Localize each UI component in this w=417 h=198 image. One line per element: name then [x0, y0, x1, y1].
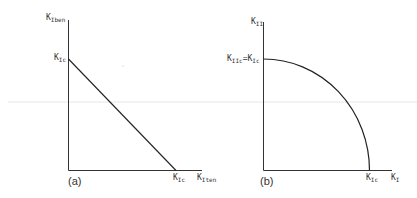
panel-b-elliptical-criterion-curve — [264, 59, 370, 171]
panel-b-caption: (b) — [260, 176, 273, 187]
panel-a-caption: (a) — [68, 176, 81, 187]
panel-a-x-intercept-label: KIc — [173, 174, 185, 183]
panel-a-x-axis-label: KIten — [197, 174, 216, 183]
scan-speck — [122, 65, 124, 67]
panel-b-x-intercept-label: KIc — [366, 174, 378, 183]
panel-b-x-axis-label: KI — [391, 174, 399, 183]
panel-b-axes — [264, 22, 393, 171]
panel-a-axes — [69, 20, 203, 171]
panel-a-y-intercept-label: KIc — [54, 54, 66, 63]
panel-b-y-axis-label: KII — [251, 18, 263, 27]
panel-a-y-axis-label: KIben — [46, 14, 65, 23]
panel-b-y-intercept-label: KIIc=KIc — [227, 55, 260, 64]
panel-a-linear-criterion-line — [69, 59, 177, 171]
fracture-criteria-diagram: KIben KIc KIc KIten (a) KII KIIc=KIc KIc… — [0, 0, 417, 198]
diagram-graphics — [0, 0, 417, 198]
